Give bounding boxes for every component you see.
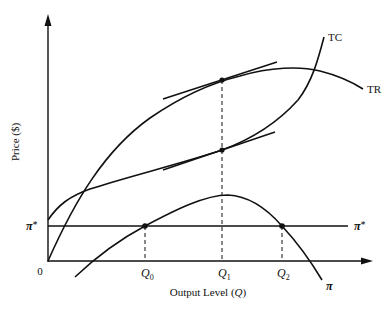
tc-curve — [48, 37, 324, 220]
q0-label: Q0 — [141, 266, 154, 282]
tr-curve — [48, 68, 363, 261]
profit-curve-label: π — [326, 279, 333, 293]
x-axis-label: Output Level (Q) — [170, 286, 247, 299]
q2-label: Q2 — [277, 266, 290, 282]
target-profit-label-right: π* — [354, 219, 366, 233]
tr-label: TR — [367, 83, 382, 95]
q0-intersection-point — [142, 223, 148, 229]
tc-tangent-point — [219, 147, 224, 152]
x-axis-arrow-icon — [361, 258, 373, 265]
axes — [45, 14, 374, 265]
origin-label: 0 — [37, 265, 43, 277]
y-axis-label: Price ($) — [9, 123, 22, 162]
tc-tangent-line — [163, 132, 275, 170]
profit-maximization-diagram: Price ($) Output Level (Q) 0 TC TR π π* … — [0, 0, 392, 312]
target-profit-label-left: π* — [26, 219, 38, 233]
y-axis-arrow-icon — [45, 14, 52, 26]
tc-label: TC — [328, 31, 342, 43]
q1-label: Q1 — [218, 266, 231, 282]
q2-intersection-point — [279, 223, 285, 229]
tr-tangent-point — [219, 77, 224, 82]
